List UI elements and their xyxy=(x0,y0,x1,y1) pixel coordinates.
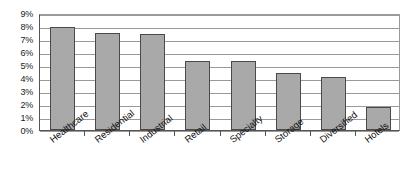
bar-healthcare xyxy=(50,27,75,130)
y-tick-label: 3% xyxy=(20,88,33,97)
x-tick-mark xyxy=(355,131,356,136)
y-tick-label: 2% xyxy=(20,101,33,110)
bar-residential xyxy=(95,33,120,131)
x-tick-mark xyxy=(310,131,311,136)
x-axis-category-labels: HealthcareResidentialIndustrialRetailSpe… xyxy=(39,137,415,191)
y-tick-label: 9% xyxy=(20,10,33,19)
y-tick-label: 0% xyxy=(20,127,33,136)
x-tick-mark xyxy=(174,131,175,136)
y-axis: 9%8%7%6%5%4%3%2%1%0% xyxy=(0,14,36,131)
x-tick-mark xyxy=(129,131,130,136)
x-tick-mark xyxy=(220,131,221,136)
bar-retail xyxy=(185,61,210,130)
y-tick-label: 1% xyxy=(20,114,33,123)
bar-chart: 9%8%7%6%5%4%3%2%1%0% HealthcareResidenti… xyxy=(0,0,415,191)
y-tick-label: 5% xyxy=(20,62,33,71)
y-tick-label: 6% xyxy=(20,49,33,58)
y-tick-label: 4% xyxy=(20,75,33,84)
x-tick-mark xyxy=(84,131,85,136)
x-tick-mark xyxy=(265,131,266,136)
y-tick-label: 8% xyxy=(20,23,33,32)
y-tick-label: 7% xyxy=(20,36,33,45)
